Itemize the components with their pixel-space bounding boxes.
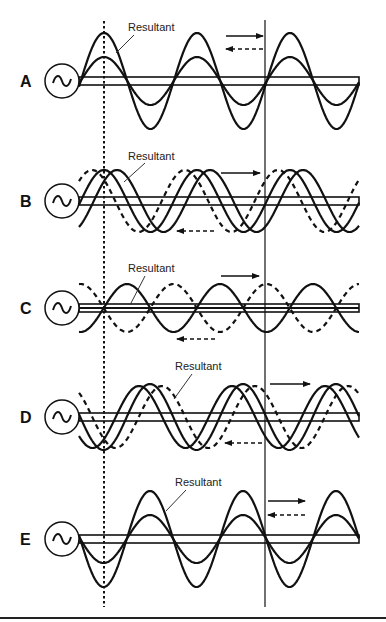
resultant-label: Resultant bbox=[128, 262, 174, 274]
panel-a: AResultant bbox=[20, 21, 359, 129]
panel-letter: B bbox=[20, 193, 32, 210]
resultant-label: Resultant bbox=[175, 476, 221, 488]
standing-wave-diagram: AResultantBResultantCResultantDResultant… bbox=[0, 0, 386, 622]
leader-line bbox=[130, 276, 145, 305]
panel-d: DResultant bbox=[20, 360, 359, 450]
leader-line bbox=[166, 490, 186, 511]
leader-line bbox=[116, 35, 134, 53]
panel-c: CResultant bbox=[20, 262, 359, 339]
leader-line bbox=[124, 163, 145, 182]
panels-layer: AResultantBResultantCResultantDResultant… bbox=[20, 21, 359, 587]
leader-line bbox=[174, 374, 192, 399]
panel-letter: A bbox=[20, 73, 32, 90]
resultant-label: Resultant bbox=[175, 360, 221, 372]
panel-b: BResultant bbox=[20, 150, 359, 232]
panel-letter: E bbox=[20, 531, 31, 548]
resultant-label: Resultant bbox=[128, 21, 174, 33]
panel-letter: D bbox=[20, 409, 32, 426]
resultant-label: Resultant bbox=[128, 150, 174, 162]
panel-letter: C bbox=[20, 300, 32, 317]
panel-e: EResultant bbox=[20, 476, 359, 587]
